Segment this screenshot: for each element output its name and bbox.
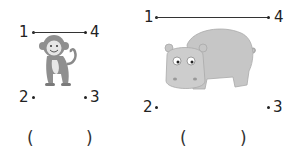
label-3: 3 [90, 90, 100, 105]
segment-1-4 [33, 32, 85, 33]
monkey-icon [37, 34, 83, 88]
point-4 [84, 31, 87, 34]
answer-close-paren: ) [86, 130, 93, 147]
label-2: 2 [19, 90, 29, 105]
point-4 [267, 16, 270, 19]
answer-open-paren: ( [180, 130, 187, 147]
point-2 [155, 106, 158, 109]
hippo-icon [163, 25, 258, 97]
point-3 [84, 96, 87, 99]
answer-blank[interactable] [38, 128, 86, 148]
point-3 [267, 106, 270, 109]
label-4: 4 [274, 10, 284, 25]
answer-open-paren: ( [27, 130, 34, 147]
point-2 [32, 96, 35, 99]
label-4: 4 [90, 25, 100, 40]
label-2: 2 [143, 100, 153, 115]
answer-blank[interactable] [192, 128, 240, 148]
label-1: 1 [19, 25, 29, 40]
label-3: 3 [273, 100, 283, 115]
segment-1-4 [156, 17, 268, 18]
label-1: 1 [144, 10, 154, 25]
answer-close-paren: ) [240, 130, 247, 147]
